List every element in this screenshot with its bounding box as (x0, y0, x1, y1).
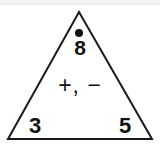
operators-label: +, − (45, 74, 115, 97)
bottom-right-value: 5 (111, 115, 139, 137)
figure-canvas: 8 +, − 3 5 (0, 0, 160, 147)
top-value: 8 (60, 37, 100, 58)
bottom-left-value: 3 (21, 115, 49, 137)
